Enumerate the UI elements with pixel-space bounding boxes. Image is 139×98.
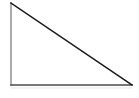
triangle-figure: [0, 0, 139, 98]
figure-canvas: [0, 0, 139, 98]
